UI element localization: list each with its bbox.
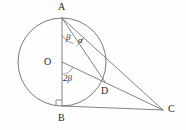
point-label-a: A <box>58 2 65 12</box>
point-label-o: O <box>44 57 51 67</box>
segment-bc <box>62 106 163 110</box>
point-label-c: C <box>168 104 175 114</box>
point-label-d: D <box>101 86 108 96</box>
angle-label-alpha-at-a: α <box>78 36 83 45</box>
geometry-figure: A O B D C β α 2β <box>0 0 186 130</box>
segment-ac <box>62 18 163 110</box>
segment-oc <box>62 62 163 110</box>
right-angle-mark-at-b <box>56 100 62 106</box>
angle-label-two-beta-at-o: 2β <box>63 74 72 83</box>
point-label-b: B <box>58 113 65 123</box>
geometry-canvas <box>0 0 186 130</box>
angle-label-beta-at-a: β <box>66 33 70 42</box>
